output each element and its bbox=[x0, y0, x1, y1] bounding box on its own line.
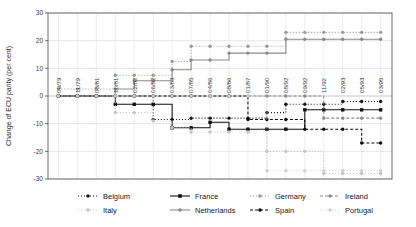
data-point bbox=[284, 94, 287, 97]
data-point bbox=[246, 45, 249, 48]
data-point bbox=[360, 31, 363, 34]
legend-marker bbox=[258, 208, 262, 212]
chart-container: -30-20-100102030 09/7911/7903/8110/8102/… bbox=[0, 0, 416, 227]
data-point bbox=[265, 169, 268, 172]
x-date-label: 02/82 bbox=[131, 77, 138, 93]
legend-marker bbox=[328, 208, 332, 212]
data-point bbox=[265, 150, 268, 153]
data-point bbox=[303, 108, 306, 111]
x-date-label: 05/93 bbox=[358, 77, 365, 93]
data-point bbox=[265, 51, 268, 54]
data-point bbox=[360, 169, 363, 172]
legend-item-netherlands[interactable]: Netherlands bbox=[170, 206, 236, 215]
legend-item-italy[interactable]: Italy bbox=[78, 206, 117, 215]
data-point bbox=[208, 121, 211, 124]
y-tick-label: -10 bbox=[34, 120, 44, 127]
data-point bbox=[360, 116, 363, 119]
x-date-label: 01/90 bbox=[263, 77, 270, 93]
legend-item-germany[interactable]: Germany bbox=[250, 192, 306, 201]
legend-label: Belgium bbox=[103, 192, 130, 201]
legend-item-belgium[interactable]: Belgium bbox=[78, 192, 130, 201]
legend-marker bbox=[86, 208, 90, 212]
data-point bbox=[284, 128, 287, 131]
svg-text:Change of ECU parity (per cent: Change of ECU parity (per cent) bbox=[5, 46, 13, 146]
data-point bbox=[303, 31, 306, 34]
data-point bbox=[208, 58, 211, 61]
legend-item-france[interactable]: France bbox=[170, 192, 218, 201]
data-point bbox=[322, 128, 325, 131]
legend-label: Netherlands bbox=[195, 206, 236, 215]
data-point bbox=[303, 169, 306, 172]
data-point bbox=[189, 58, 192, 61]
data-point bbox=[341, 100, 344, 103]
ecu-parity-line-chart: -30-20-100102030 09/7911/7903/8110/8102/… bbox=[0, 0, 416, 227]
x-date-label: 07/85 bbox=[187, 77, 194, 93]
data-point bbox=[189, 45, 192, 48]
data-point bbox=[322, 31, 325, 34]
legend-label: Italy bbox=[103, 206, 117, 215]
data-point bbox=[133, 103, 136, 106]
data-point bbox=[379, 169, 382, 172]
legend-item-portugal[interactable]: Portugal bbox=[320, 206, 373, 215]
data-point bbox=[151, 103, 154, 106]
data-point bbox=[208, 116, 211, 119]
x-date-label: 02/93 bbox=[339, 77, 346, 93]
legend-marker bbox=[328, 194, 332, 198]
data-point bbox=[114, 111, 117, 114]
data-point bbox=[379, 38, 382, 41]
data-point bbox=[341, 38, 344, 41]
data-point bbox=[360, 100, 363, 103]
data-point bbox=[265, 118, 268, 121]
data-point bbox=[114, 74, 117, 77]
x-date-label: 09/79 bbox=[55, 77, 62, 93]
data-point bbox=[76, 94, 79, 97]
y-tick-label: 20 bbox=[36, 37, 44, 44]
data-point bbox=[170, 68, 173, 71]
data-point bbox=[227, 116, 230, 119]
data-point bbox=[246, 118, 249, 121]
y-tick-label: 0 bbox=[39, 92, 43, 99]
data-point bbox=[341, 116, 344, 119]
data-point bbox=[303, 103, 306, 106]
data-point bbox=[322, 169, 325, 172]
x-date-label: 08/86 bbox=[225, 77, 232, 93]
data-point bbox=[227, 51, 230, 54]
data-point bbox=[379, 31, 382, 34]
data-point bbox=[189, 94, 192, 97]
y-axis-title: Change of ECU parity (per cent) bbox=[5, 46, 13, 146]
x-date-label: 09/92 bbox=[301, 77, 308, 93]
x-date-label: 04/86 bbox=[206, 77, 213, 93]
data-point bbox=[151, 74, 154, 77]
x-date-label: 03/81 bbox=[93, 77, 100, 93]
data-point bbox=[246, 130, 249, 133]
data-point bbox=[133, 94, 136, 97]
legend-label: Spain bbox=[275, 206, 294, 215]
data-point bbox=[227, 130, 230, 133]
data-point bbox=[265, 45, 268, 48]
data-point bbox=[341, 31, 344, 34]
data-point bbox=[208, 45, 211, 48]
data-point bbox=[208, 130, 211, 133]
data-point bbox=[303, 38, 306, 41]
x-date-label: 06/82 bbox=[149, 77, 156, 93]
legend-item-ireland[interactable]: Ireland bbox=[320, 192, 368, 201]
data-point bbox=[341, 108, 344, 111]
legend-label: Germany bbox=[275, 192, 306, 201]
y-tick-label: 10 bbox=[36, 65, 44, 72]
legend-marker bbox=[86, 194, 90, 198]
legend-item-spain[interactable]: Spain bbox=[250, 206, 294, 215]
x-date-label: 11/79 bbox=[74, 77, 81, 93]
data-point bbox=[322, 116, 325, 119]
x-date-label: 03/95 bbox=[377, 77, 384, 93]
data-point bbox=[303, 94, 306, 97]
data-point bbox=[189, 130, 192, 133]
data-point bbox=[360, 141, 363, 144]
data-point bbox=[227, 94, 230, 97]
y-axis: -30-20-100102030 bbox=[34, 9, 48, 182]
data-point bbox=[341, 169, 344, 172]
legend-marker bbox=[178, 208, 182, 212]
data-point bbox=[57, 94, 60, 97]
legend-label: Ireland bbox=[345, 192, 368, 201]
data-point bbox=[189, 116, 192, 119]
data-point bbox=[360, 108, 363, 111]
